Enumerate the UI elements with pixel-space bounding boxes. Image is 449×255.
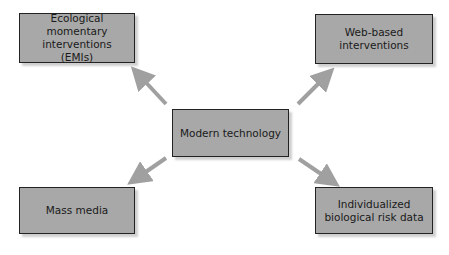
node-label: Individualized biological risk data	[316, 198, 432, 224]
node-mass-media: Mass media	[19, 187, 135, 234]
node-center: Modern technology	[172, 109, 289, 157]
node-biological-risk: Individualized biological risk data	[315, 187, 433, 234]
arrow-to-tr	[298, 76, 326, 104]
arrow-to-tl	[139, 75, 166, 104]
center-label: Modern technology	[180, 127, 281, 140]
arrow-to-br	[299, 159, 330, 180]
node-web-based: Web-based interventions	[315, 14, 433, 64]
arrow-to-bl	[137, 158, 166, 178]
node-label: Mass media	[46, 204, 108, 217]
node-emis: Ecological momentary interventions (EMIs…	[19, 13, 135, 63]
node-label: Web-based interventions	[316, 26, 432, 52]
node-label: Ecological momentary interventions (EMIs…	[20, 12, 134, 64]
